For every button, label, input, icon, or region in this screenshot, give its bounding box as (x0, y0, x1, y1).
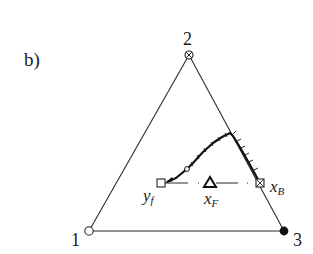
edge-1-2 (89, 55, 189, 231)
xB-square-cross-marker (256, 179, 264, 187)
panel-label: b) (24, 49, 40, 71)
yf-square-marker (157, 179, 165, 187)
vertex-3-label: 3 (293, 230, 302, 250)
ternary-diagram: b) (0, 0, 313, 254)
xB-label: xB (269, 177, 285, 197)
vertex-2 (185, 51, 193, 59)
curve-line (167, 133, 260, 183)
xF-triangle-marker (204, 177, 216, 187)
vertex-3-filled-circle-marker (280, 227, 289, 236)
curve-point-marker (185, 167, 190, 172)
vertex-1-label: 1 (71, 230, 80, 250)
triangle (89, 55, 284, 231)
residue-curve (165, 131, 260, 183)
xF-label: xF (203, 189, 219, 209)
vertex-2-label: 2 (183, 29, 192, 49)
yf-label: yf (141, 186, 156, 206)
vertex-1-open-circle-marker (85, 227, 93, 235)
